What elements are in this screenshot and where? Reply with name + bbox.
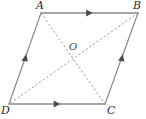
diagonals xyxy=(9,13,138,104)
vertex-label-b: B xyxy=(133,0,141,11)
arrow-marker-dc-icon xyxy=(54,101,60,108)
intersection-label-o: O xyxy=(69,42,77,52)
arrow-marker-da-icon xyxy=(22,54,28,62)
vertex-label-d: D xyxy=(1,105,10,116)
vertex-label-a: A xyxy=(36,0,44,11)
diagonal-bd xyxy=(9,13,138,104)
figure-canvas xyxy=(0,0,146,119)
arrow-marker-ab-icon xyxy=(86,10,92,17)
vertex-label-c: C xyxy=(107,105,115,116)
arrow-marker-cb-icon xyxy=(118,54,124,62)
geometry-figure: A B C D O xyxy=(0,0,146,119)
